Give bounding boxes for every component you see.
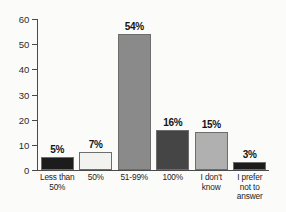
bar-value-label: 5% [41, 144, 74, 155]
bar-slot: 3% [233, 19, 266, 170]
y-axis-tick [32, 120, 37, 121]
y-axis-tick [32, 44, 37, 45]
bar[interactable] [79, 152, 112, 170]
bar[interactable] [156, 130, 189, 170]
x-axis-line [37, 170, 269, 171]
y-axis-tick-label: 40 [0, 64, 29, 75]
x-axis-label-line: answer [227, 192, 274, 202]
y-axis-tick-label: 0 [0, 165, 29, 176]
x-axis-category-label: I prefernot toanswer [227, 173, 274, 202]
bar-slot: 54% [118, 19, 151, 170]
plot-area: 5%7%54%16%15%3% [38, 19, 269, 170]
y-axis-tick [32, 95, 37, 96]
bar-slot: 16% [156, 19, 189, 170]
y-axis-tick-label: 30 [0, 89, 29, 100]
y-axis-tick [32, 170, 37, 171]
bar-slot: 15% [195, 19, 228, 170]
bar-chart: 0102030405060 5%7%54%16%15%3% Less than5… [0, 0, 286, 212]
bar[interactable] [195, 132, 228, 170]
bar[interactable] [41, 157, 74, 170]
bar-slot: 5% [41, 19, 74, 170]
bar-value-label: 3% [233, 149, 266, 160]
y-axis-tick-label: 20 [0, 114, 29, 125]
y-axis-tick-label: 50 [0, 39, 29, 50]
y-axis-tick-label: 10 [0, 139, 29, 150]
bar-value-label: 16% [156, 117, 189, 128]
bar[interactable] [233, 162, 266, 170]
y-axis-tick-label: 60 [0, 14, 29, 25]
y-axis-tick [32, 19, 37, 20]
y-axis-tick [32, 145, 37, 146]
bar-value-label: 54% [118, 21, 151, 32]
bar-value-label: 15% [195, 119, 228, 130]
bar-value-label: 7% [79, 139, 112, 150]
bar[interactable] [118, 34, 151, 170]
y-axis-tick [32, 69, 37, 70]
x-axis-label-line: 50% [34, 183, 81, 193]
bar-slot: 7% [79, 19, 112, 170]
